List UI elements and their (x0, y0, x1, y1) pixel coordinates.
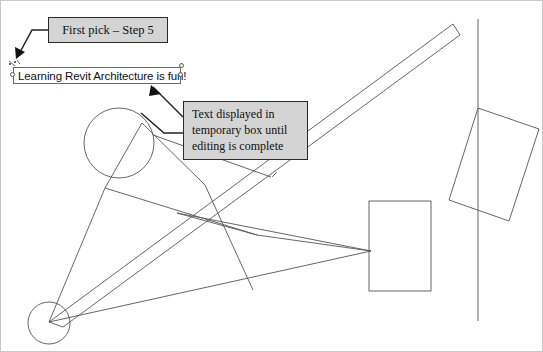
cad-drawing-canvas (1, 1, 543, 352)
upper-circle (84, 108, 154, 178)
callout-first-pick-label: First pick – Step 5 (62, 22, 154, 39)
callout-temp-line-2: temporary box until (192, 123, 300, 139)
radiating-line-d (205, 185, 253, 290)
arrowhead-first-pick (15, 47, 25, 59)
text-box-drag-dot-b[interactable] (14, 61, 16, 63)
text-edit-input[interactable]: Learning Revit Architecture is fun! (18, 67, 182, 84)
callout-temp-line-1: Text displayed in (192, 107, 300, 123)
arrowhead-temp-box (149, 85, 161, 96)
text-box-grip-rotate[interactable] (179, 63, 184, 68)
rotated-rectangle (449, 108, 539, 221)
sight-line-left (105, 188, 257, 235)
radiating-line-a (105, 123, 142, 188)
pick-mark-b (17, 60, 20, 64)
sight-line-mid (177, 213, 371, 251)
text-box-grip-left[interactable] (10, 72, 15, 77)
center-rectangle (369, 201, 431, 291)
sight-line-long (177, 213, 257, 235)
callout-temporary-box: Text displayed in temporary box until ed… (183, 101, 308, 160)
text-box-grip-right[interactable] (178, 72, 183, 77)
sight-line-to-rect (257, 235, 371, 251)
text-box-drag-dot-a[interactable] (9, 63, 11, 65)
callout-first-pick: First pick – Step 5 (48, 17, 168, 43)
callout-temp-line-3: editing is complete (192, 139, 300, 155)
lower-circle (28, 302, 70, 344)
drawing-screenshot: Learning Revit Architecture is fun! Firs… (0, 0, 543, 352)
